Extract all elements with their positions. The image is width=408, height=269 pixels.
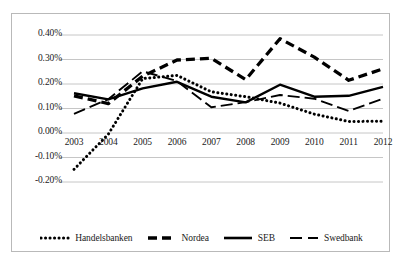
dashed-thick-line-marker xyxy=(147,234,177,242)
y-axis-tick-label: 0.10% xyxy=(18,102,62,112)
legend-label: Nordea xyxy=(182,233,209,243)
legend-item[interactable]: SEB xyxy=(223,233,275,243)
y-axis-tick-label: -0.20% xyxy=(18,175,62,185)
legend-label: Handelsbanken xyxy=(75,233,132,243)
solid-line-marker xyxy=(223,234,253,242)
line-chart-plot xyxy=(12,14,391,253)
chart-legend: HandelsbankenNordeaSEBSwedbank xyxy=(12,233,391,243)
dotted-line-marker xyxy=(40,234,70,242)
legend-label: Swedbank xyxy=(324,233,363,243)
series-line-seb xyxy=(74,82,383,103)
chart-frame: -0.20%-0.10%0.00%0.10%0.20%0.30%0.40% 20… xyxy=(11,13,390,252)
y-axis-tick-label: 0.30% xyxy=(18,53,62,63)
legend-item[interactable]: Handelsbanken xyxy=(40,233,132,243)
y-axis-tick-label: -0.10% xyxy=(18,151,62,161)
y-axis-tick-label: 0.40% xyxy=(18,28,62,38)
legend-item[interactable]: Swedbank xyxy=(289,233,363,243)
series-line-nordea xyxy=(74,39,383,104)
legend-label: SEB xyxy=(258,233,275,243)
long-dash-line-marker xyxy=(289,234,319,242)
gridlines xyxy=(60,35,383,182)
y-axis-tick-label: 0.20% xyxy=(18,77,62,87)
legend-item[interactable]: Nordea xyxy=(147,233,209,243)
x-axis-tick-label: 2012 xyxy=(363,137,403,147)
y-axis-tick-label: 0.00% xyxy=(18,126,62,136)
series-layer xyxy=(74,39,383,170)
series-line-swedbank xyxy=(74,71,383,114)
